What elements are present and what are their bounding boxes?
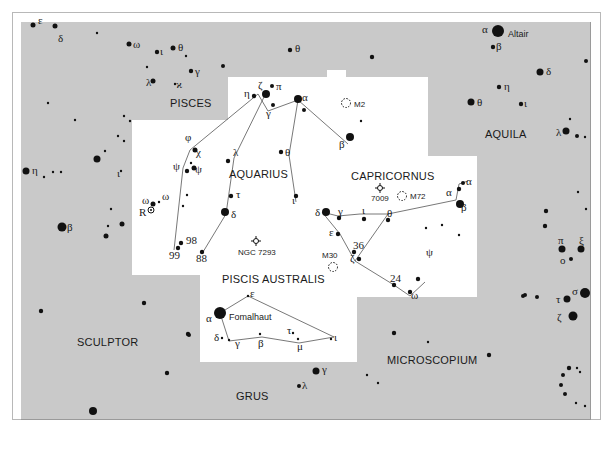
star-designation: θ: [285, 146, 290, 158]
star-designation: β: [461, 201, 467, 213]
star-designation: ε: [38, 14, 43, 26]
star-designation: β: [339, 138, 345, 150]
star-designation: σ: [572, 285, 578, 297]
star-designation: ω: [142, 194, 149, 206]
star-designation: θ: [387, 207, 392, 219]
star-designation: α: [482, 23, 488, 35]
star-designation: ψ: [426, 246, 433, 258]
star-designation: γ: [321, 363, 327, 375]
star-designation: ψ: [195, 163, 202, 175]
deep-sky-label: NGC 7293: [238, 248, 276, 257]
constellation-label-grus: GRUS: [236, 390, 269, 402]
star-name-altair: Altair: [508, 29, 529, 39]
star-designation: ψ: [173, 160, 180, 172]
star-designation: θ: [477, 96, 482, 108]
star-designation: δ: [214, 331, 219, 343]
star-designation: ζ: [557, 311, 562, 324]
deep-sky-label: M72: [410, 192, 426, 201]
star-designation: φ: [185, 131, 191, 143]
star-designation: ζ: [258, 79, 263, 92]
star-designation: τ: [556, 293, 561, 305]
star-designation: θ: [295, 42, 300, 54]
star-designation: ω: [133, 38, 140, 50]
star-designation: α: [206, 312, 212, 324]
star-designation: ι: [117, 167, 120, 179]
constellation-label-microscopium: MICROSCOPIUM: [387, 354, 477, 366]
flamsteed-number: 98: [186, 234, 198, 246]
flamsteed-number: 24: [390, 272, 402, 284]
star-designation: ω: [411, 289, 418, 301]
constellation-label-aquarius: AQUARIUS: [229, 168, 288, 180]
star-designation: γ: [337, 205, 343, 217]
highlight-region: [132, 70, 477, 362]
star-designation: γ: [194, 65, 200, 77]
star-designation: ξ: [579, 234, 584, 247]
star-designation: ι: [292, 194, 295, 206]
star-designation: λ: [302, 379, 308, 391]
star-designation: ι: [362, 204, 365, 216]
star-designation: λ: [556, 126, 562, 138]
star-designation: π: [558, 234, 564, 246]
star-designation: η: [504, 80, 510, 92]
star-designation: ζ: [350, 252, 355, 265]
star-designation: δ: [231, 208, 236, 220]
star-designation: θ: [178, 41, 183, 53]
star-designation: α: [466, 175, 472, 187]
star-designation: α: [446, 186, 452, 198]
star-designation: δ: [315, 206, 320, 218]
star-designation: η: [32, 164, 38, 176]
deep-sky-label: 7009: [371, 194, 389, 203]
star-designation: γ: [234, 337, 240, 349]
star-designation: λ: [146, 76, 152, 88]
star-designation: δ: [546, 65, 551, 77]
star-designation: δ: [58, 32, 63, 44]
star-designation: ϰ: [176, 78, 183, 90]
star-designation: λ: [233, 146, 239, 158]
star-designation: β: [496, 40, 502, 52]
star-designation: ι: [524, 97, 527, 109]
star-designation: μ: [297, 340, 303, 352]
star-designation: τ: [287, 324, 292, 336]
deep-sky-label: M30: [322, 251, 338, 260]
star-chart-svg: PISCESAQUARIUSCAPRICORNUSAQUILAPISCIS AU…: [0, 0, 610, 451]
deep-sky-label: M2: [354, 100, 366, 109]
star-designation: R: [139, 206, 147, 218]
star-designation: ω: [162, 190, 169, 202]
star-name-fomalhaut: Fomalhaut: [229, 312, 272, 322]
flamsteed-number: 88: [196, 252, 208, 264]
constellation-label-piscis-australis: PISCIS AUSTRALIS: [222, 273, 325, 285]
star-designation: α: [302, 91, 308, 103]
star-designation: π: [276, 80, 282, 92]
flamsteed-number: 36: [353, 239, 365, 251]
star-designation: β: [67, 221, 73, 233]
constellation-label-sculptor: SCULPTOR: [77, 336, 138, 348]
star-designation: ι: [160, 45, 163, 57]
star-designation: γ: [265, 107, 271, 119]
star-designation: η: [244, 87, 250, 99]
star-designation: ο: [560, 254, 566, 266]
star-designation: ε: [250, 287, 255, 299]
constellation-label-pisces: PISCES: [170, 97, 212, 109]
star-designation: β: [258, 337, 264, 349]
star-designation: ι: [334, 331, 337, 343]
constellation-label-capricornus: CAPRICORNUS: [351, 170, 435, 182]
constellation-label-aquila: AQUILA: [485, 128, 527, 140]
star-designation: χ: [195, 146, 201, 158]
flamsteed-number: 99: [169, 249, 181, 261]
star-designation: τ: [236, 188, 241, 200]
star-designation: ε: [329, 226, 334, 238]
